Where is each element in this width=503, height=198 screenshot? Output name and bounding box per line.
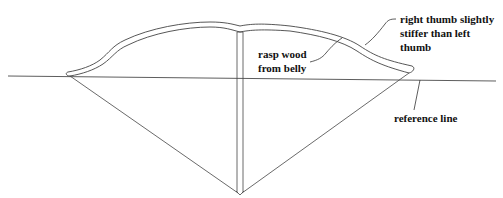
reference-line-label: reference line [394, 112, 458, 124]
right-thumb-label-3: thumb [400, 41, 431, 53]
bow-thumb-diagram: right thumb slightly stiffer than left t… [0, 0, 503, 198]
rasp-leader [310, 38, 342, 62]
right-thumb-label-1: right thumb slightly [400, 13, 495, 25]
reference-leader [414, 80, 420, 110]
bow-limb [66, 22, 414, 76]
left-triangle-side [70, 76, 238, 193]
right-triangle-side [242, 73, 409, 193]
rasp-label-1: rasp wood [258, 48, 307, 60]
right-thumb-leader [365, 19, 396, 45]
rasp-label-2: from belly [258, 62, 307, 74]
reference-line [8, 76, 496, 81]
right-thumb-label-2: stiffer than left [400, 27, 470, 39]
vertical-strut [236, 32, 244, 195]
